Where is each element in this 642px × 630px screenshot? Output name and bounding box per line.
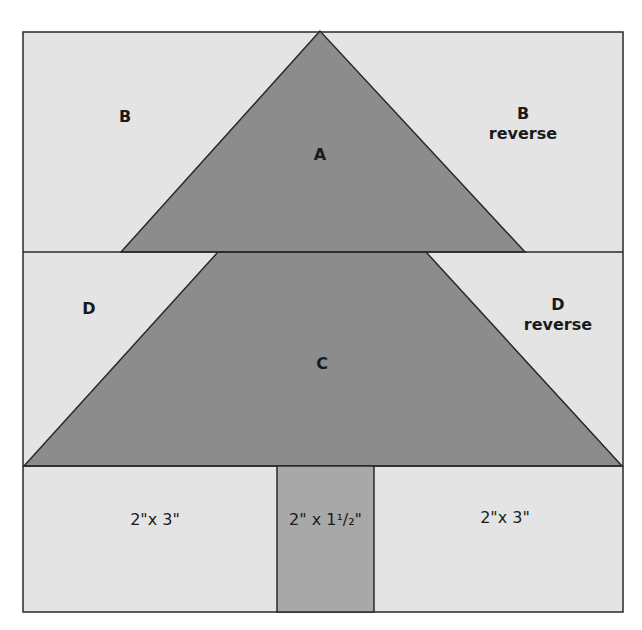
label-b-reverse-letter: B: [478, 104, 568, 124]
label-b: B: [110, 107, 140, 127]
label-a: A: [305, 145, 335, 165]
label-b-reverse-sub: reverse: [478, 124, 568, 144]
label-c: C: [307, 354, 337, 374]
label-b-reverse: B reverse: [478, 104, 568, 144]
label-bottom-left-dimension: 2"x 3": [100, 510, 210, 530]
label-d: D: [74, 299, 104, 319]
label-d-reverse-sub: reverse: [508, 315, 608, 335]
label-d-reverse: D reverse: [508, 295, 608, 335]
label-d-reverse-letter: D: [508, 295, 608, 315]
piece-trunk: [277, 466, 374, 612]
label-trunk-dimension: 2" x 1¹/₂": [277, 510, 374, 530]
label-bottom-right-dimension: 2"x 3": [450, 508, 560, 528]
